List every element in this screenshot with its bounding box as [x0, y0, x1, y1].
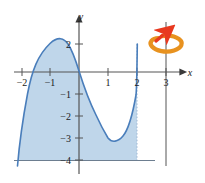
x-tick-label-2: 2: [135, 77, 140, 88]
y-tick-label-neg3: −3: [60, 133, 71, 144]
y-tick-label-neg4: −4: [60, 155, 71, 166]
y-tick-label-2: 2: [66, 39, 71, 50]
y-axis-label: y: [78, 11, 84, 22]
shaded-region: [18, 39, 137, 160]
x-axis-label: x: [187, 67, 193, 78]
x-tick-label-3: 3: [164, 77, 169, 88]
y-tick-label-neg2: −2: [60, 111, 71, 122]
x-tick-label-neg2: −2: [17, 77, 28, 88]
area-under-curve-chart: −2 −1 1 2 3 2 −1 −2 −3 −4 x y: [0, 0, 205, 183]
y-tick-label-neg1: −1: [60, 89, 71, 100]
x-tick-label-1: 1: [106, 77, 111, 88]
figure-container: −2 −1 1 2 3 2 −1 −2 −3 −4 x y: [0, 0, 205, 183]
x-tick-label-neg1: −1: [45, 77, 56, 88]
